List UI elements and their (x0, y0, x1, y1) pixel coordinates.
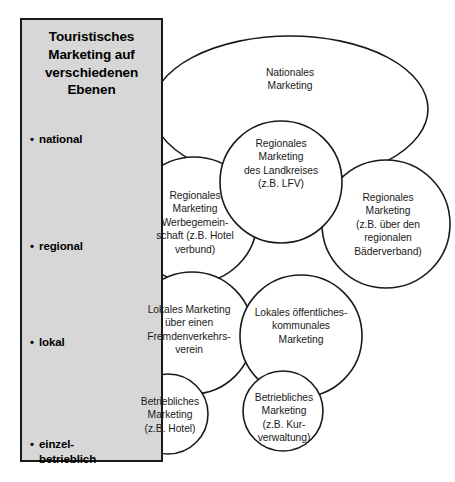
level-item-regional: regional (39, 239, 83, 254)
panel-title-line-3: verschiedenen (22, 64, 161, 82)
figure-root: Nationales Marketing Regionales Marketin… (0, 0, 455, 482)
panel-title-line-2: Marketing auf (22, 46, 161, 64)
label-baederverband: Regionales Marketing (z.B. über den regi… (330, 191, 446, 258)
label-betrieb-kurverwaltung: Betriebliches Marketing (z.B. Kur- verwa… (234, 391, 334, 445)
level-item-lokal: lokal (39, 335, 65, 350)
panel-title-line-4: Ebenen (22, 81, 161, 99)
label-fremdenverkehrsverein: Lokales Marketing über einen Fremdenverk… (124, 303, 254, 357)
label-national: Nationales Marketing (225, 66, 355, 93)
label-werbegemeinschaft: Regionales Marketing Werbegemein- schaft… (136, 189, 254, 256)
label-landkreis: Regionales Marketing des Landkreises (z.… (215, 137, 347, 191)
level-item-einzelbetrieblich: einzel- betrieblich (39, 437, 96, 466)
label-kommunal: Lokales öffentliches- kommunales Marketi… (237, 306, 365, 346)
level-item-national: national (39, 132, 82, 147)
label-betrieb-hotel: Betriebliches Marketing (z.B. Hotel) (118, 395, 222, 435)
panel-title: Touristisches Marketing auf verschiedene… (22, 28, 161, 99)
panel-title-line-1: Touristisches (22, 28, 161, 46)
